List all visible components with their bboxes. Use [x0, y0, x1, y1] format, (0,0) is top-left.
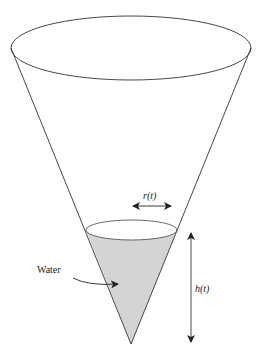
cone-diagram: r(t) h(t) Water: [0, 0, 259, 357]
height-label: h(t): [195, 283, 210, 295]
water-surface: [86, 220, 177, 240]
cone-left-side: [11, 48, 131, 344]
radius-label: r(t): [143, 190, 157, 202]
cone-top-rim: [11, 16, 251, 80]
water-label: Water: [37, 264, 61, 275]
water-volume: [86, 230, 177, 344]
